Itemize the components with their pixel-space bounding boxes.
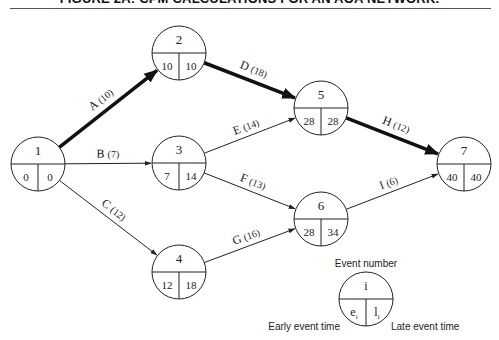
event-number: 1 <box>35 143 42 158</box>
early-event-time: 28 <box>304 115 316 127</box>
early-event-time: 7 <box>164 170 170 182</box>
late-event-time: 0 <box>47 171 53 183</box>
activity-label: E (14) <box>231 115 261 138</box>
activity-label: I (6) <box>377 172 399 192</box>
event-number: 6 <box>318 198 325 213</box>
activity-e: E (14) <box>204 115 295 153</box>
legend: Event number i ei li Early event time La… <box>268 258 460 332</box>
activity-b: B (7) <box>65 146 151 163</box>
activity-d: D (18) <box>204 57 295 97</box>
event-number: 4 <box>176 251 183 266</box>
early-event-time: 0 <box>23 171 29 183</box>
late-event-time: 28 <box>328 115 340 127</box>
event-node-7: 74040 <box>437 137 491 191</box>
event-node-5: 52828 <box>294 81 348 135</box>
activity-a: A (10) <box>59 70 157 147</box>
event-node-1: 100 <box>11 137 65 191</box>
event-node-3: 3714 <box>152 136 206 190</box>
early-event-time: 40 <box>447 171 459 183</box>
late-event-time: 10 <box>186 60 198 72</box>
late-event-time: 34 <box>328 226 340 238</box>
legend-early-label: Early event time <box>268 321 340 332</box>
event-number: 5 <box>318 87 325 102</box>
activity-label: C (12) <box>99 196 129 224</box>
activity-g: G (16) <box>204 225 294 263</box>
activity-c: C (12) <box>59 180 156 255</box>
activity-label: F (13) <box>238 170 268 193</box>
event-node-6: 62834 <box>294 192 348 246</box>
event-node-4: 41218 <box>152 245 206 299</box>
activity-f: F (13) <box>204 170 295 209</box>
legend-late-label: Late event time <box>391 321 460 332</box>
aoa-network-diagram: A (10)B (7)C (12)D (18)E (14)F (13)G (16… <box>0 0 499 340</box>
event-node-2: 21010 <box>152 26 206 80</box>
event-number: 7 <box>461 143 468 158</box>
activity-i: I (6) <box>346 172 438 209</box>
late-event-time: 18 <box>186 279 198 291</box>
late-event-time: 40 <box>471 171 483 183</box>
late-event-time: 14 <box>186 170 198 182</box>
early-event-time: 12 <box>162 279 173 291</box>
activity-arrow <box>59 180 156 255</box>
legend-event-number-label: Event number <box>335 258 398 269</box>
early-event-time: 10 <box>162 60 174 72</box>
activity-label: G (16) <box>230 225 261 248</box>
activity-h: H (12) <box>346 113 438 154</box>
early-event-time: 28 <box>304 226 316 238</box>
activity-label: B (7) <box>97 146 120 160</box>
activity-arrow <box>59 70 157 147</box>
activity-label: A (10) <box>85 85 115 113</box>
event-number: 3 <box>176 142 183 157</box>
activity-arrow <box>65 163 151 164</box>
event-number: 2 <box>176 32 183 47</box>
activity-arrows: A (10)B (7)C (12)D (18)E (14)F (13)G (16… <box>59 57 438 262</box>
